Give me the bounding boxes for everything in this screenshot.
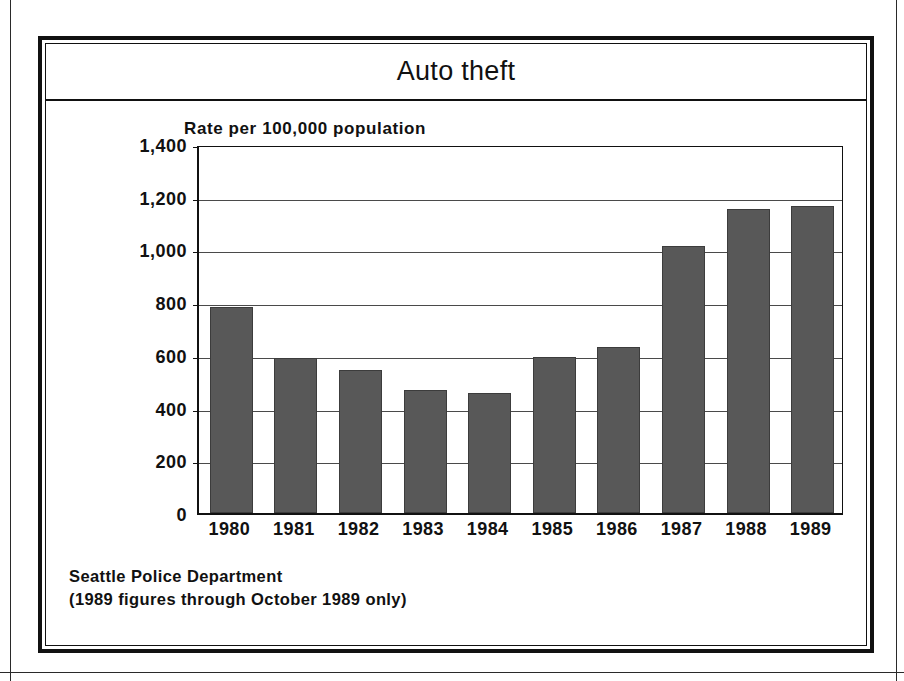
bar [662, 246, 705, 513]
plot-area [197, 146, 843, 515]
page-rule-right [896, 0, 897, 681]
y-axis-tick-labels: 02004006008001,0001,2001,400 [101, 146, 187, 515]
x-axis-tick-labels: 1980198119821983198419851986198719881989 [197, 519, 843, 547]
chart-title: Auto theft [397, 56, 516, 87]
title-band: Auto theft [46, 44, 866, 101]
x-axis-tick-label: 1983 [402, 519, 444, 540]
page-rule-left [10, 0, 11, 681]
source-line-1: Seattle Police Department [69, 565, 407, 587]
y-axis-tick-label: 800 [155, 294, 187, 315]
y-axis-unit-label: Rate per 100,000 population [184, 119, 426, 139]
source-line-2: (1989 figures through October 1989 only) [69, 588, 407, 610]
figure-frame: Auto theft Rate per 100,000 population 0… [38, 36, 874, 653]
bar [404, 390, 447, 513]
y-axis-tick-label: 200 [155, 452, 187, 473]
bar [597, 347, 640, 513]
x-axis-tick-label: 1984 [467, 519, 509, 540]
y-axis-tick-label: 600 [155, 346, 187, 367]
page-rule-bottom [0, 672, 904, 673]
y-axis-tick-label: 1,400 [139, 136, 187, 157]
x-axis-tick-label: 1982 [338, 519, 380, 540]
x-axis-tick-label: 1989 [790, 519, 832, 540]
x-axis-tick-label: 1985 [531, 519, 573, 540]
x-axis-tick-label: 1981 [273, 519, 315, 540]
figure-body: Rate per 100,000 population 020040060080… [46, 101, 866, 645]
x-axis-tick-label: 1980 [208, 519, 250, 540]
figure-frame-inner: Auto theft Rate per 100,000 population 0… [45, 43, 867, 646]
bar [468, 393, 511, 513]
y-axis-tick-label: 400 [155, 399, 187, 420]
y-axis-tick-label: 1,200 [139, 188, 187, 209]
bar [210, 307, 253, 513]
x-axis-tick-label: 1987 [661, 519, 703, 540]
y-axis-tick-label: 1,000 [139, 241, 187, 262]
bar [791, 206, 834, 513]
bar [533, 357, 576, 513]
source-note: Seattle Police Department (1989 figures … [69, 565, 407, 610]
bar [339, 370, 382, 513]
bar [727, 209, 770, 513]
bar [274, 358, 317, 513]
x-axis-tick-label: 1988 [725, 519, 767, 540]
x-axis-tick-label: 1986 [596, 519, 638, 540]
bars-layer [199, 147, 842, 513]
y-axis-tick-label: 0 [176, 505, 187, 526]
